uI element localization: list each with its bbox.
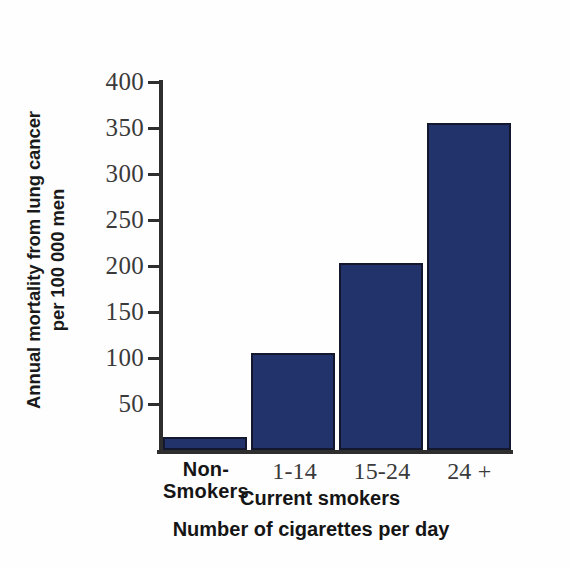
bar	[251, 353, 335, 450]
y-axis-tick	[148, 127, 159, 130]
y-axis-tick-label: 200	[106, 252, 144, 280]
y-axis-tick-label: 400	[106, 68, 144, 96]
bar-chart-figure: Annual mortality from lung cancer per 10…	[0, 0, 570, 569]
x-axis-line	[157, 450, 513, 454]
y-axis-tick	[148, 357, 159, 360]
x-axis-category-label-line2: Smokers	[163, 480, 249, 502]
y-axis-tick-label: 150	[106, 298, 144, 326]
x-axis-category-label-line1: 15-24	[353, 458, 410, 484]
y-axis-tick-label: 300	[106, 160, 144, 188]
plot-area: 40035030025020015010050	[163, 82, 511, 450]
x-axis-title: Number of cigarettes per day	[0, 518, 562, 541]
bar	[427, 123, 511, 450]
bar-series	[163, 82, 511, 450]
y-axis-tick-label: 250	[106, 206, 144, 234]
y-axis-tick	[148, 173, 159, 176]
y-axis-tick-label: 100	[106, 344, 144, 372]
y-axis-title-line2: per 100 000 men	[46, 111, 70, 409]
y-axis-tick-label: 350	[106, 114, 144, 142]
y-axis-title: Annual mortality from lung cancer per 10…	[14, 60, 78, 460]
bar	[163, 437, 247, 450]
x-axis-category-label-line1: Non-	[183, 458, 229, 480]
y-axis-title-line1: Annual mortality from lung cancer	[23, 111, 44, 409]
y-axis-tick	[148, 265, 159, 268]
y-axis-tick	[148, 219, 159, 222]
x-axis-category-label-line1: 24 +	[447, 458, 491, 484]
bar	[339, 263, 423, 450]
y-axis-tick	[148, 311, 159, 314]
y-axis-tick	[148, 81, 159, 84]
y-axis-tick	[148, 403, 159, 406]
y-axis-tick-label: 50	[118, 390, 144, 418]
x-axis-category-label-line1: 1-14	[272, 458, 317, 484]
x-axis-group-label: Current smokers	[240, 487, 530, 510]
x-axis-category-label: Non-Smokers	[163, 458, 249, 503]
